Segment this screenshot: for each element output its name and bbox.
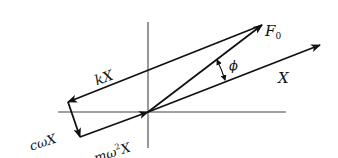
- vector-mw2x: [80, 112, 148, 137]
- label-mw2x: mω2X: [92, 139, 133, 158]
- vector-cwx: [68, 102, 80, 137]
- label-f0: F0: [264, 22, 281, 41]
- vector-f0: [148, 25, 262, 112]
- vector-x: [148, 45, 320, 112]
- phasor-diagram: F0 X ϕ kX cωX mω2X: [0, 0, 338, 158]
- label-x: X: [277, 69, 290, 87]
- label-cwx: cωX: [28, 131, 59, 154]
- phi-angle-arc: [217, 60, 225, 80]
- label-phi: ϕ: [229, 58, 238, 73]
